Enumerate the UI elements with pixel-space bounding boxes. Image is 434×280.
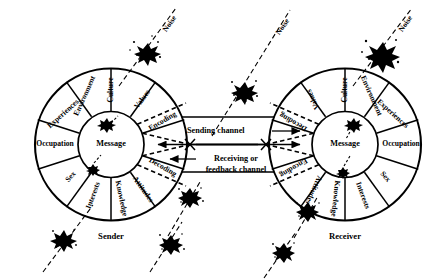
receiver-segment-culture: Culture xyxy=(340,77,349,103)
noise-marker-bottom-receiver xyxy=(264,232,296,278)
sender-role-label: Sender xyxy=(98,231,124,241)
noise-marker-center-upper xyxy=(168,182,204,236)
noise-marker-center-lower xyxy=(150,222,185,272)
communication-model-diagram: Message Culture Values Encoding Decoding… xyxy=(0,0,434,280)
noise-label-top-right: Noise xyxy=(397,13,415,33)
noise-label-center-top: Noise xyxy=(274,16,292,36)
sender-segment-occupation: Occupation xyxy=(36,139,74,148)
noise-splatter-icon xyxy=(361,39,400,73)
sender-wheel: Message Culture Values Encoding Decoding… xyxy=(35,69,190,241)
diagram-canvas: Message Culture Values Encoding Decoding… xyxy=(0,0,434,280)
sender-segment-culture: Culture xyxy=(106,77,115,103)
receiver-segment-occupation: Occupation xyxy=(382,139,420,148)
noise-splatter-icon xyxy=(231,80,258,105)
sending-channel-label: Sending channel xyxy=(187,126,245,135)
feedback-channel-label-line1: Receiving or xyxy=(214,154,258,163)
noise-label-top-left: Noise xyxy=(161,13,179,33)
feedback-channel-label-line2: feedback channel xyxy=(206,165,267,174)
noise-splatter-icon xyxy=(159,233,185,255)
noise-splatter-icon xyxy=(272,242,295,263)
receiver-hub-label: Message xyxy=(330,139,360,148)
sender-hub-label: Message xyxy=(96,139,126,148)
receiver-wheel: Message Culture Values Decoding Encoding… xyxy=(266,69,421,241)
receiver-role-label: Receiver xyxy=(329,231,361,241)
noise-splatter-icon xyxy=(178,187,204,208)
noise-splatter-icon xyxy=(129,35,161,66)
